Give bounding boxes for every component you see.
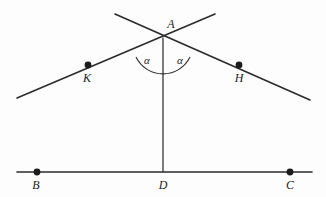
geometry-diagram: A K H B D C α α [0,0,326,197]
point-marker-H [236,62,243,69]
point-label-K: K [82,71,92,85]
point-marker-C [287,169,294,176]
point-label-A: A [166,17,175,31]
diagram-svg: A K H B D C α α [0,0,326,197]
point-label-H: H [234,71,245,85]
point-marker-B [34,169,41,176]
point-label-C: C [286,178,295,192]
ray-through-K [17,14,215,98]
angle-label-alpha-left: α [144,54,150,66]
point-label-B: B [32,178,40,192]
point-label-D: D [158,178,168,192]
point-marker-K [85,62,92,69]
angle-label-alpha-right: α [177,54,183,66]
